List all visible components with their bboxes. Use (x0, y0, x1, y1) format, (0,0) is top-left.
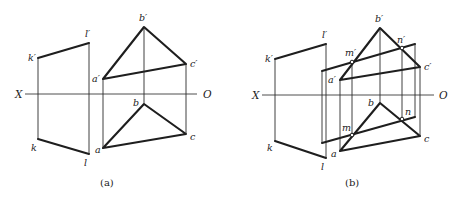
label-k: k (267, 142, 273, 153)
label-l: l (84, 157, 87, 168)
point-n (400, 117, 404, 121)
label-n-prime: n′ (397, 34, 406, 45)
label-l-prime: l′ (322, 29, 328, 40)
triangle-top-view (103, 104, 186, 148)
label-b-prime: b′ (139, 12, 148, 23)
label-b: b (133, 97, 139, 108)
point-n-prime (400, 46, 404, 50)
label-m-prime: m′ (345, 47, 357, 58)
axis-label-x: X (251, 89, 260, 101)
label-a: a (95, 144, 101, 155)
label-n: n (405, 106, 411, 117)
label-a: a (331, 148, 337, 159)
label-a-prime: a′ (92, 73, 101, 84)
label-k-prime: k′ (28, 52, 37, 63)
panel-b: X O k′ l′ k l a′ b′ c′ m′ (251, 13, 448, 188)
point-m (350, 133, 354, 137)
line-k-l (38, 139, 89, 154)
label-k-prime: k′ (265, 53, 274, 64)
label-a-prime: a′ (328, 74, 337, 85)
caption-b: (b) (345, 177, 359, 188)
axis-label-x: X (14, 88, 23, 100)
triangle-front-view (103, 27, 186, 79)
label-c-prime: c′ (424, 61, 432, 72)
axis-label-o: O (203, 88, 212, 100)
line-k-prime-l-prime (275, 44, 326, 59)
label-b-prime: b′ (375, 13, 384, 24)
axis-label-o: O (439, 89, 448, 101)
label-c-prime: c′ (190, 58, 198, 69)
projection-diagram: X O k′ l′ k l a′ b′ c′ a b c (a) X O (0, 0, 455, 202)
label-l: l (321, 161, 324, 172)
label-k: k (31, 142, 37, 153)
label-l-prime: l′ (85, 28, 91, 39)
label-c: c (424, 133, 430, 144)
point-m-prime (350, 60, 354, 64)
label-m: m (342, 122, 351, 133)
line-k-l (275, 141, 326, 158)
label-b: b (368, 97, 374, 108)
caption-a: (a) (100, 177, 114, 188)
line-k-prime-l-prime (38, 43, 89, 58)
panel-a: X O k′ l′ k l a′ b′ c′ a b c (a) (14, 12, 212, 188)
label-c: c (190, 131, 196, 142)
